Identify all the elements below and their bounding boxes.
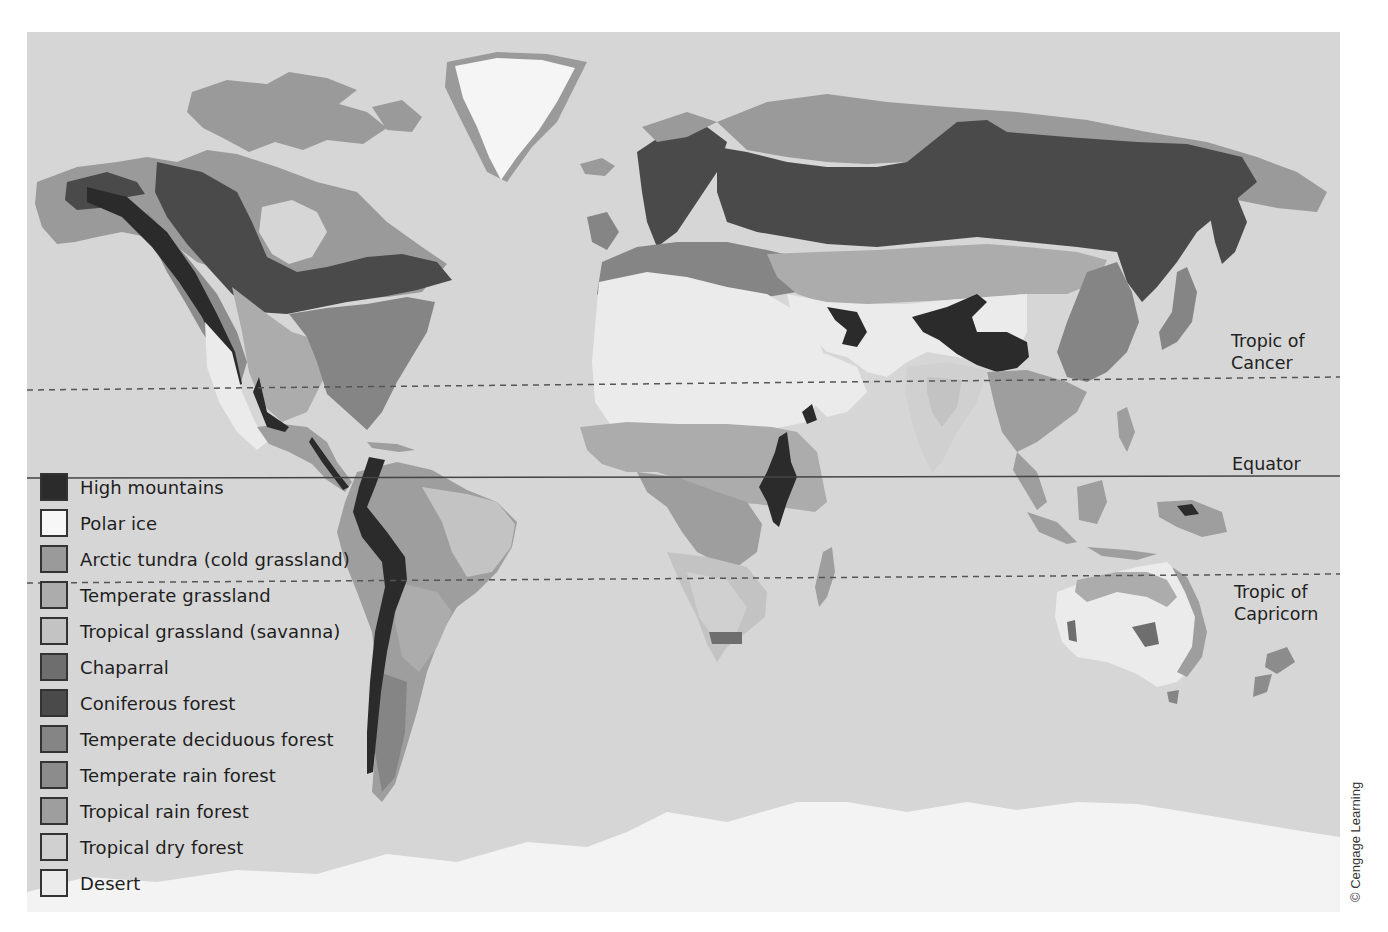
legend-item-high-mountains: High mountains	[40, 472, 224, 502]
tropic-of-cancer-label-line1: Tropic of	[1231, 330, 1305, 352]
scandinavia	[637, 127, 727, 247]
swatch-temperate-rain-forest	[40, 761, 68, 789]
tropic-of-capricorn-label-line1: Tropic of	[1234, 581, 1318, 603]
legend-label: Arctic tundra (cold grassland)	[80, 549, 350, 570]
legend-item-tropical-dry-forest: Tropical dry forest	[40, 832, 243, 862]
legend-item-tropical-grassland: Tropical grassland (savanna)	[40, 616, 340, 646]
swatch-polar-ice	[40, 509, 68, 537]
legend-label: Desert	[80, 873, 140, 894]
equator-label: Equator	[1232, 453, 1301, 475]
legend-item-tropical-rain-forest: Tropical rain forest	[40, 796, 249, 826]
swatch-desert	[40, 869, 68, 897]
legend-item-coniferous-forest: Coniferous forest	[40, 688, 236, 718]
legend-label: Coniferous forest	[80, 693, 236, 714]
legend-label: Chaparral	[80, 657, 169, 678]
legend-item-polar-ice: Polar ice	[40, 508, 157, 538]
swatch-tropical-dry-forest	[40, 833, 68, 861]
legend-label: High mountains	[80, 477, 224, 498]
swatch-temperate-deciduous-forest	[40, 725, 68, 753]
legend-label: Polar ice	[80, 513, 157, 534]
swatch-coniferous-forest	[40, 689, 68, 717]
swatch-high-mountains	[40, 473, 68, 501]
legend-label: Tropical rain forest	[80, 801, 249, 822]
equator-line	[27, 476, 1340, 478]
copyright-credit: © Cengage Learning	[1348, 782, 1363, 902]
swatch-arctic-tundra	[40, 545, 68, 573]
legend-item-chaparral: Chaparral	[40, 652, 169, 682]
tropic-of-cancer-label-line2: Cancer	[1231, 352, 1305, 374]
legend-item-temperate-rain-forest: Temperate rain forest	[40, 760, 276, 790]
swatch-tropical-rain-forest	[40, 797, 68, 825]
legend-label: Tropical dry forest	[80, 837, 243, 858]
legend-item-temperate-grassland: Temperate grassland	[40, 580, 271, 610]
legend-item-temperate-deciduous-forest: Temperate deciduous forest	[40, 724, 334, 754]
swatch-chaparral	[40, 653, 68, 681]
swatch-tropical-grassland	[40, 617, 68, 645]
tropic-of-cancer-label: Tropic of Cancer	[1231, 330, 1305, 374]
legend-label: Tropical grassland (savanna)	[80, 621, 340, 642]
arctic-archipelago	[187, 72, 387, 152]
legend-item-arctic-tundra: Arctic tundra (cold grassland)	[40, 544, 350, 574]
legend-label: Temperate grassland	[80, 585, 271, 606]
legend-label: Temperate deciduous forest	[80, 729, 334, 750]
legend-item-desert: Desert	[40, 868, 140, 898]
southeast-asia	[987, 370, 1087, 452]
central-asia-steppe	[767, 244, 1107, 304]
tropic-of-capricorn-label: Tropic of Capricorn	[1234, 581, 1318, 625]
swatch-temperate-grassland	[40, 581, 68, 609]
legend-label: Temperate rain forest	[80, 765, 276, 786]
tropic-of-capricorn-label-line2: Capricorn	[1234, 603, 1318, 625]
